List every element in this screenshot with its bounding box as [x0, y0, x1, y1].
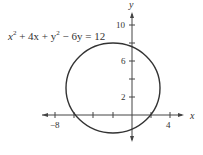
- circle-curve: [66, 43, 160, 133]
- y-tick-label: 2: [121, 92, 126, 102]
- x-axis: x −8 4: [42, 110, 195, 130]
- y-tick-label: 10: [116, 20, 126, 30]
- equation-label: x2 + 4x + y2 − 6y = 12: [7, 29, 105, 42]
- x-axis-left-arrow-icon: [42, 113, 48, 117]
- x-axis-right-arrow-icon: [178, 113, 184, 117]
- x-tick-label: −8: [50, 120, 60, 130]
- y-axis-down-arrow-icon: [130, 136, 134, 142]
- y-axis-up-arrow-icon: [130, 12, 134, 18]
- y-axis-label: y: [128, 0, 134, 10]
- y-axis: y 2 6 10: [116, 0, 135, 142]
- y-tick-label: 6: [121, 56, 126, 66]
- x-tick-label: 4: [166, 120, 171, 130]
- x-axis-label: x: [189, 110, 195, 121]
- circle-graph: x −8 4 y 2 6 10 x2 + 4x + y2 − 6y = 12: [0, 0, 203, 155]
